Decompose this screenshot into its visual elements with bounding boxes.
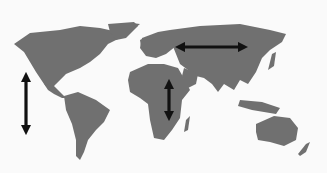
world-map-graphic <box>0 0 327 173</box>
continents <box>14 22 310 160</box>
madagascar <box>184 116 190 132</box>
africa <box>128 64 190 140</box>
japan <box>268 52 276 70</box>
indonesia <box>238 100 280 114</box>
new-zealand <box>298 142 310 156</box>
australia <box>256 116 298 146</box>
central-america <box>44 84 66 98</box>
world-map <box>0 0 327 173</box>
south-america <box>64 92 110 160</box>
